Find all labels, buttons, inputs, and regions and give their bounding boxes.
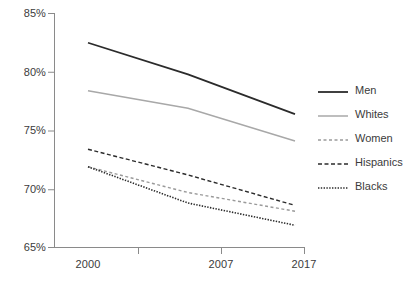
legend-item-women[interactable]: Women <box>318 126 408 150</box>
y-tick-label-65: 65% <box>0 241 46 253</box>
line-chart: 85% 80% 75% 70% 65% 2000 2007 2017 Men W… <box>0 0 409 282</box>
legend-label-men: Men <box>355 84 376 96</box>
series-line-men <box>88 43 295 114</box>
legend-label-whites: Whites <box>355 108 389 120</box>
legend-label-women: Women <box>355 132 393 144</box>
legend-swatch-men <box>318 84 348 96</box>
legend-item-hispanics[interactable]: Hispanics <box>318 150 408 174</box>
legend-swatch-hispanics <box>318 156 348 168</box>
legend-swatch-blacks <box>318 180 348 192</box>
series-line-hispanics <box>88 149 295 205</box>
x-tick-label-2017: 2017 <box>274 258 334 270</box>
legend-swatch-women <box>318 132 348 144</box>
series-layer <box>88 43 295 226</box>
x-tick-label-2000: 2000 <box>58 258 118 270</box>
legend-label-blacks: Blacks <box>355 180 387 192</box>
legend-swatch-whites <box>318 108 348 120</box>
y-tick-label-70: 70% <box>0 183 46 195</box>
legend-label-hispanics: Hispanics <box>355 156 403 168</box>
chart-legend: Men Whites Women Hispanics Blacks <box>318 78 408 198</box>
legend-item-men[interactable]: Men <box>318 78 408 102</box>
y-tick-label-75: 75% <box>0 124 46 136</box>
series-line-whites <box>88 91 295 141</box>
x-tick-label-2007: 2007 <box>191 258 251 270</box>
y-tick-label-85: 85% <box>0 7 46 19</box>
y-tick-label-80: 80% <box>0 66 46 78</box>
legend-item-whites[interactable]: Whites <box>318 102 408 126</box>
y-axis-ticks <box>48 14 55 248</box>
legend-item-blacks[interactable]: Blacks <box>318 174 408 198</box>
x-axis-ticks <box>139 248 305 255</box>
